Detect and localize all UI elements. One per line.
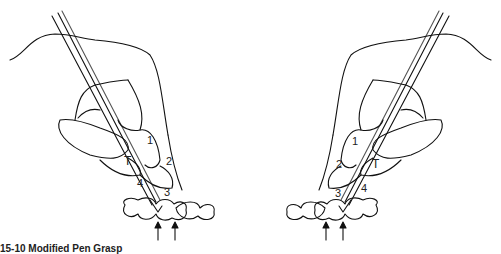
right-finger-3-label: 3 xyxy=(335,188,341,199)
left-thumb-label: T xyxy=(124,155,131,167)
left-finger-4-label: 4 xyxy=(137,178,143,189)
figure-caption: 15-10 Modified Pen Grasp xyxy=(0,243,122,254)
right-finger-4-label: 4 xyxy=(361,183,367,194)
right-finger-1-label: 1 xyxy=(352,136,358,147)
left-finger-3-label: 3 xyxy=(164,187,170,198)
right-thumb-label: T xyxy=(372,158,379,170)
right-finger-2-label: 2 xyxy=(336,159,342,170)
left-finger-1-label: 1 xyxy=(147,135,153,146)
right-hand-illustration xyxy=(287,11,491,240)
left-hand-illustration xyxy=(10,11,214,240)
left-finger-2-label: 2 xyxy=(166,156,172,167)
